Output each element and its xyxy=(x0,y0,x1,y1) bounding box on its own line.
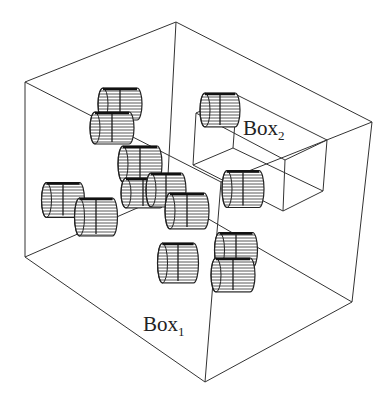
box-edge xyxy=(205,302,352,382)
box1-label-sub: 1 xyxy=(178,324,185,339)
box2-label-sub: 2 xyxy=(278,128,285,143)
box2-label: Box2 xyxy=(243,118,285,142)
box-edge xyxy=(25,22,176,82)
box-edge xyxy=(193,148,233,165)
cylinder xyxy=(75,198,118,236)
cylinder xyxy=(211,258,255,292)
box-edge xyxy=(167,22,176,195)
box-edge xyxy=(323,140,327,191)
box-edge xyxy=(283,191,323,211)
box-edge xyxy=(352,122,372,302)
box1-label-base: Box xyxy=(143,312,178,336)
box2-label-base: Box xyxy=(243,116,278,140)
cylinder xyxy=(90,112,134,144)
cylinder xyxy=(158,243,199,283)
box1-label: Box1 xyxy=(143,314,185,338)
diagram-canvas xyxy=(0,0,391,402)
cylinder xyxy=(222,171,264,208)
box-edge xyxy=(283,160,285,211)
cylinder xyxy=(200,93,240,127)
cylinder-group xyxy=(42,88,265,292)
box-edge xyxy=(285,140,327,160)
box-edge xyxy=(193,113,196,165)
cylinder xyxy=(165,193,209,229)
